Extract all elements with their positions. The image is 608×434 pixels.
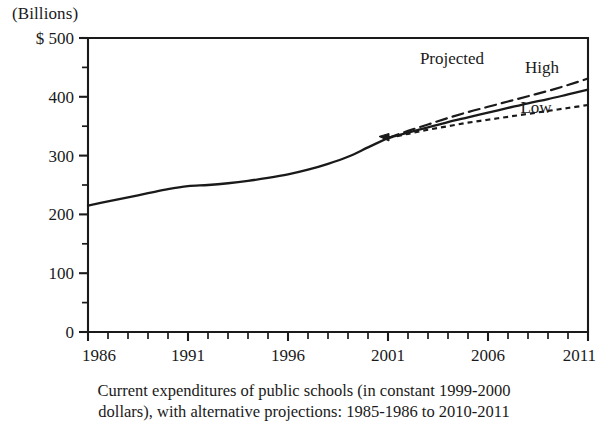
y-tick-label: $ 500 — [36, 29, 74, 48]
data-series-group — [88, 79, 588, 206]
annotation-projected: Projected — [420, 49, 485, 68]
x-axis-ticks — [88, 332, 588, 341]
x-axis-tick-labels: 198619911996200120062011 — [82, 346, 596, 365]
x-tick-label: 1996 — [271, 346, 305, 365]
y-tick-label: 0 — [66, 323, 75, 342]
figure-caption: Current expenditures of public schools (… — [0, 380, 608, 423]
x-tick-label: 2006 — [471, 346, 505, 365]
x-tick-label: 1986 — [82, 346, 116, 365]
figure-container: (Billions) 0100200300400$ 500 1986199119… — [0, 0, 608, 434]
caption-line-1: Current expenditures of public schools (… — [0, 380, 608, 401]
y-axis-tick-labels: 0100200300400$ 500 — [36, 29, 74, 342]
line-chart: 0100200300400$ 500 198619911996200120062… — [0, 0, 608, 380]
annotation-low: Low — [520, 98, 552, 117]
caption-line-2: dollars), with alternative projections: … — [0, 401, 608, 422]
series-line-actual — [88, 138, 388, 206]
series-line-low — [388, 105, 588, 138]
x-tick-label: 1991 — [171, 346, 205, 365]
y-tick-label: 300 — [49, 147, 75, 166]
y-tick-label: 200 — [49, 205, 75, 224]
plot-frame — [88, 38, 588, 332]
x-tick-label: 2011 — [563, 346, 596, 365]
x-tick-label: 2001 — [371, 346, 405, 365]
y-tick-label: 400 — [49, 88, 75, 107]
y-tick-label: 100 — [49, 264, 75, 283]
y-axis-ticks — [79, 38, 88, 332]
annotation-high: High — [525, 58, 560, 77]
